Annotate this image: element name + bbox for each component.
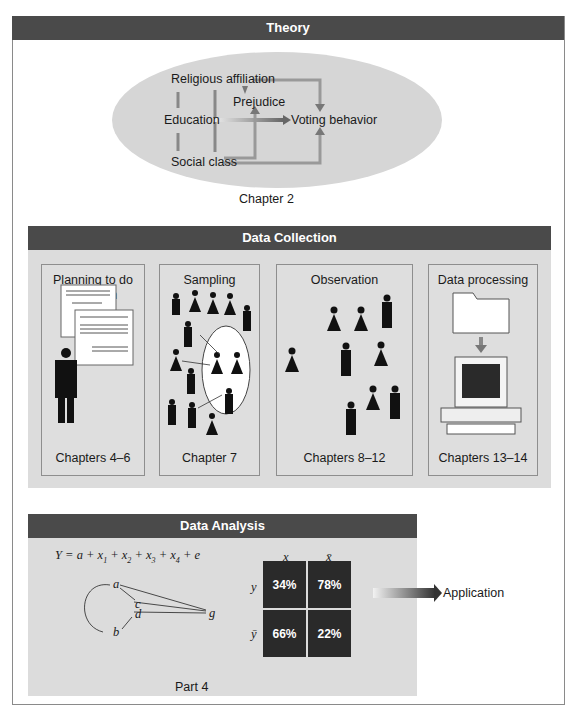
application-arrow-icon xyxy=(0,0,578,715)
application-label: Application xyxy=(443,586,504,600)
